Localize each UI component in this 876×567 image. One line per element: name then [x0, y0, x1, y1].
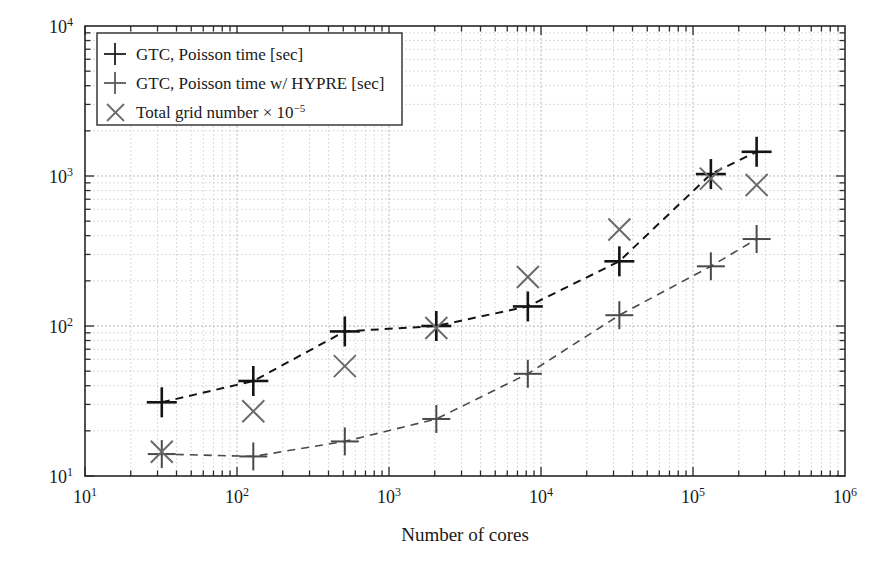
chart-figure: 101102103104105106101102103104 Number of… — [0, 0, 876, 567]
legend-item-total-grid-number: Total grid number × 10−5 — [107, 102, 306, 122]
chart-legend: GTC, Poisson time [sec] GTC, Poisson tim… — [97, 33, 402, 125]
legend-label-0: GTC, Poisson time [sec] — [136, 45, 303, 64]
legend-item-poisson-time-hypre: GTC, Poisson time w/ HYPRE [sec] — [104, 72, 384, 94]
log-log-scatter-chart: 101102103104105106101102103104 Number of… — [0, 0, 876, 567]
legend-label-1: GTC, Poisson time w/ HYPRE [sec] — [136, 74, 384, 93]
legend-label-2: Total grid number × 10−5 — [136, 102, 306, 122]
x-axis-title: Number of cores — [401, 524, 529, 545]
